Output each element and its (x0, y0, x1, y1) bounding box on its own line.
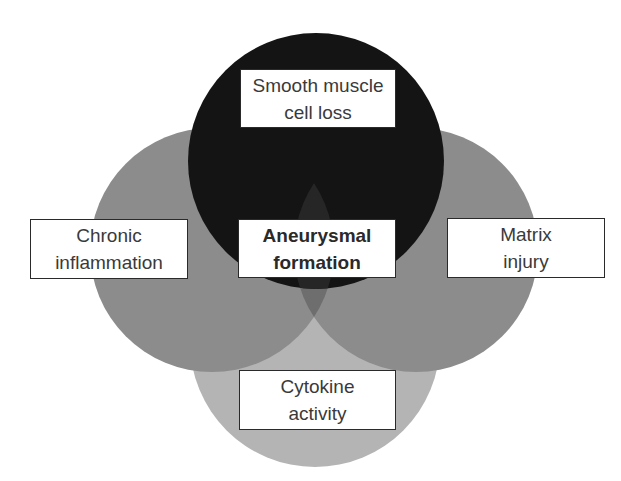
label-line: inflammation (55, 249, 163, 276)
label-line: activity (288, 400, 346, 427)
label-line: injury (503, 248, 548, 275)
label-aneurysmal-formation: Aneurysmal formation (238, 219, 396, 278)
label-line: Cytokine (281, 373, 355, 400)
label-line: Aneurysmal (263, 222, 372, 249)
label-chronic-inflammation: Chronic inflammation (30, 219, 188, 279)
label-line: Chronic (76, 222, 141, 249)
label-line: cell loss (284, 99, 352, 126)
label-line: formation (273, 249, 361, 276)
label-matrix-injury: Matrix injury (447, 218, 605, 278)
label-cytokine-activity: Cytokine activity (239, 370, 396, 430)
label-line: Smooth muscle (253, 72, 384, 99)
label-smooth-muscle-cell-loss: Smooth muscle cell loss (240, 69, 396, 128)
label-line: Matrix (500, 221, 552, 248)
